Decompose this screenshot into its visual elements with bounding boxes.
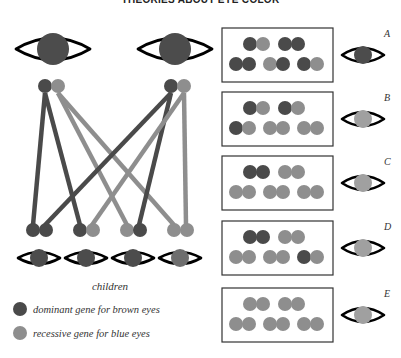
recessive-gene-dot [276, 185, 290, 199]
child-eye-icon [65, 249, 107, 267]
result-eye-icon [342, 239, 384, 257]
dominant-gene-dot [278, 37, 292, 51]
iris [354, 46, 372, 64]
recessive-gene-dot [120, 223, 134, 237]
dominant-gene-dot [256, 230, 270, 244]
recessive-gene-dot [229, 185, 243, 199]
panel-letter-label: A [383, 28, 391, 39]
iris [124, 249, 142, 267]
dominant-gene-dot [243, 230, 257, 244]
panel-frame [222, 156, 333, 210]
recessive-gene-dot [242, 121, 256, 135]
result-eye-icon [342, 110, 384, 128]
recessive-gene-dot [310, 250, 324, 264]
child-4 [159, 223, 201, 267]
result-eye-icon [342, 46, 384, 64]
dominant-gene-dot [297, 57, 311, 71]
recessive-gene-dot [278, 297, 292, 311]
recessive-gene-dot [256, 37, 270, 51]
dominant-gene-dot [229, 57, 243, 71]
iris [171, 249, 189, 267]
recessive-gene-dot [310, 185, 324, 199]
eye-color-inheritance-diagram: children dominant gene for brown eyesrec… [0, 0, 401, 358]
recessive-gene-dot [242, 317, 256, 331]
panel-frame [222, 221, 333, 275]
dominant-gene-dot [26, 223, 40, 237]
recessive-gene-dot [177, 79, 191, 93]
recessive-gene-dot [243, 297, 257, 311]
recessive-gene-dot [263, 121, 277, 135]
recessive-gene-dot [278, 165, 292, 179]
panel-c: C [222, 156, 391, 210]
iris [37, 33, 69, 65]
dominant-gene-dot [256, 165, 270, 179]
child-2 [65, 223, 107, 267]
recessive-gene-dot [291, 165, 305, 179]
dominant-gene-dot [39, 223, 53, 237]
recessive-gene-dot [297, 317, 311, 331]
result-eye-icon [342, 174, 384, 192]
dominant-gene-dot [278, 101, 292, 115]
recessive-gene-dot [256, 297, 270, 311]
panel-frame [222, 28, 333, 82]
recessive-gene-dot [229, 250, 243, 264]
recessive-gene-dot [276, 250, 290, 264]
recessive-gene-dot [297, 185, 311, 199]
child-3 [112, 223, 154, 267]
iris [30, 249, 48, 267]
panel-e: E [222, 288, 390, 342]
recessive-gene-dot [310, 121, 324, 135]
recessive-gene-dot [291, 230, 305, 244]
children-label: children [92, 280, 129, 292]
dominant-gene-dot [242, 57, 256, 71]
recessive-gene-dot [263, 317, 277, 331]
recessive-gene-dot [256, 101, 270, 115]
panel-letter-label: E [383, 288, 390, 299]
dominant-gene-dot [164, 79, 178, 93]
recessive-gene-dot [297, 121, 311, 135]
parent-eye-icon [16, 33, 90, 65]
recessive-gene-dot [180, 223, 194, 237]
panel-letter-label: C [384, 156, 391, 167]
dominant-gene-dot [243, 101, 257, 115]
iris [354, 306, 372, 324]
dominant-gene-dot [229, 121, 243, 135]
recessive-legend-dot [13, 326, 27, 340]
recessive-gene-dot [51, 79, 65, 93]
panel-a: A [222, 28, 391, 82]
legend: dominant gene for brown eyesrecessive ge… [13, 302, 160, 340]
recessive-gene-dot [276, 317, 290, 331]
dominant-gene-dot [243, 37, 257, 51]
children-group [18, 223, 201, 267]
recessive-gene-dot [310, 57, 324, 71]
dominant-gene-dot [291, 37, 305, 51]
parent-eye-icon [138, 33, 212, 65]
recessive-gene-dot [310, 317, 324, 331]
panel-d: D [222, 221, 392, 275]
inheritance-line [184, 93, 186, 225]
dominant-gene-dot [73, 223, 87, 237]
panel-b: B [222, 92, 390, 146]
dominant-gene-dot [297, 250, 311, 264]
recessive-gene-dot [242, 250, 256, 264]
panel-letter-label: D [383, 221, 392, 232]
iris [354, 110, 372, 128]
recessive-gene-dot [291, 297, 305, 311]
recessive-gene-dot [291, 101, 305, 115]
child-eye-icon [18, 249, 60, 267]
recessive-gene-dot [229, 317, 243, 331]
iris [354, 174, 372, 192]
dominant-gene-dot [133, 223, 147, 237]
dominant-gene-dot [38, 79, 52, 93]
panels-group: ABCDE [222, 28, 392, 342]
result-eye-icon [342, 306, 384, 324]
recessive-gene-dot [242, 185, 256, 199]
recessive-gene-dot [167, 223, 181, 237]
child-eye-icon [112, 249, 154, 267]
recessive-gene-dot [263, 250, 277, 264]
panel-letter-label: B [384, 92, 390, 103]
child-eye-icon [159, 249, 201, 267]
recessive-gene-dot [263, 185, 277, 199]
recessive-legend-label: recessive gene for blue eyes [33, 328, 150, 339]
panel-frame [222, 288, 333, 342]
